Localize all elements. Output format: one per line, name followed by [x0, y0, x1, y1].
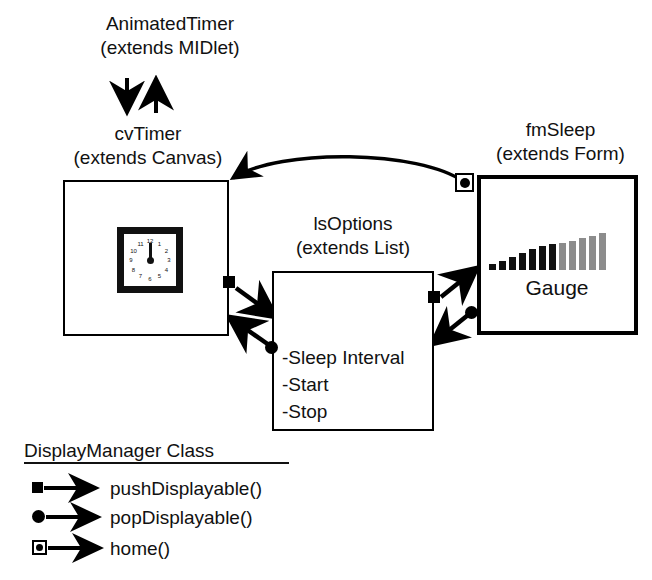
class-extends-animatedtimer: (extends MIDlet) — [55, 36, 285, 60]
gauge-icon — [489, 232, 607, 270]
connector-lsoptions-push-fmsleep — [441, 268, 477, 297]
gauge-label: Gauge — [477, 276, 637, 300]
gauge-bar — [599, 233, 606, 270]
push-marker-cvtimer-to-lsoptions — [223, 276, 235, 288]
legend-label-home: home() — [110, 538, 170, 560]
legend-title: DisplayManager Class — [24, 440, 214, 461]
clock-face: 121234567891011 — [124, 234, 176, 286]
gauge-bar — [529, 249, 536, 270]
connector-fmsleep-pop-lsoptions — [432, 315, 468, 344]
pop-marker-lsoptions-to-cvtimer — [265, 341, 278, 354]
clock-number: 7 — [139, 273, 142, 279]
class-title-fmsleep: fmSleep (extends Form) — [478, 118, 643, 166]
clock-number: 2 — [165, 248, 168, 254]
connector-cvtimer-push-lsoptions — [236, 288, 276, 317]
list-item[interactable]: -Stop — [282, 398, 405, 425]
clock-hub — [147, 257, 154, 264]
class-title-lsoptions: lsOptions (extends List) — [258, 212, 448, 260]
class-name-lsoptions: lsOptions — [258, 212, 448, 236]
lsoptions-item-list: -Sleep Interval -Start -Stop — [282, 344, 405, 425]
gauge-bar — [539, 246, 546, 270]
legend-row-pop: popDisplayable() — [24, 507, 314, 533]
gauge-bar — [549, 244, 556, 270]
home-marker-fmsleep — [455, 173, 474, 192]
gauge-bar — [509, 257, 516, 270]
gauge-bar — [589, 236, 596, 270]
clock-number: 10 — [130, 248, 137, 254]
clock-number: 11 — [137, 241, 143, 247]
clock-number: 4 — [165, 267, 168, 273]
list-item[interactable]: -Sleep Interval — [282, 344, 405, 371]
gauge-bar — [569, 241, 576, 270]
class-name-cvtimer: cvTimer — [48, 122, 248, 146]
filled-circle-marker-icon — [32, 510, 45, 523]
clock-icon: 121234567891011 — [117, 227, 183, 293]
class-title-cvtimer: cvTimer (extends Canvas) — [48, 122, 248, 170]
gauge-bar — [559, 243, 566, 270]
legend-row-push: pushDisplayable() — [24, 478, 314, 504]
list-item[interactable]: -Start — [282, 371, 405, 398]
clock-number: 3 — [167, 257, 170, 263]
gauge-bar — [519, 253, 526, 270]
class-extends-cvtimer: (extends Canvas) — [48, 146, 248, 170]
clock-number: 1 — [158, 241, 161, 247]
class-extends-lsoptions: (extends List) — [258, 236, 448, 260]
push-marker-lsoptions-to-fmsleep — [428, 291, 440, 303]
square-with-dot-marker-icon — [32, 540, 47, 555]
legend-label-pop: popDisplayable() — [110, 507, 253, 529]
legend-label-push: pushDisplayable() — [110, 478, 262, 500]
gauge-bar — [489, 264, 496, 270]
legend-row-home: home() — [24, 538, 314, 564]
filled-square-marker-icon — [32, 482, 43, 493]
connector-lsoptions-pop-cvtimer — [229, 317, 269, 345]
clock-number: 5 — [158, 273, 161, 279]
class-extends-fmsleep: (extends Form) — [478, 142, 643, 166]
clock-number: 12 — [147, 238, 154, 244]
class-name-animatedtimer: AnimatedTimer — [55, 12, 285, 36]
clock-number: 9 — [129, 257, 132, 263]
gauge-bar — [499, 261, 506, 270]
pop-marker-fmsleep-to-lsoptions — [465, 306, 478, 319]
class-name-fmsleep: fmSleep — [478, 118, 643, 142]
gauge-bar — [579, 238, 586, 270]
connector-fmsleep-home-to-cvtimer — [233, 157, 464, 182]
clock-number: 6 — [148, 276, 151, 282]
class-title-animatedtimer: AnimatedTimer (extends MIDlet) — [55, 12, 285, 60]
clock-number: 8 — [132, 267, 135, 273]
legend-divider — [24, 462, 289, 464]
